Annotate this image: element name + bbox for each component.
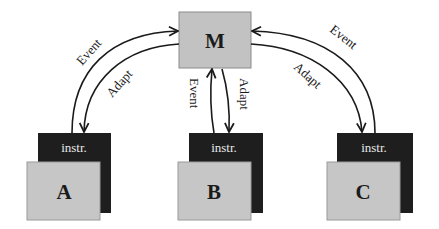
edge-b-event-arrow (211, 69, 214, 133)
node-c-label: C (355, 180, 370, 204)
node-b-label: B (207, 180, 221, 204)
node-m-label: M (205, 29, 225, 53)
node-a-instr-label: instr. (61, 140, 87, 155)
edges-b: Event Adapt (187, 69, 252, 133)
node-m: M (179, 12, 251, 68)
node-a: instr. A (27, 133, 111, 220)
event-adapt-diagram: M Event Adapt Event Adapt Event Adapt in… (0, 0, 439, 229)
node-a-label: A (56, 180, 72, 204)
node-b: instr. B (178, 133, 263, 220)
edges-c: Event Adapt (251, 22, 375, 133)
node-c: instr. C (327, 133, 413, 220)
edge-a-adapt-label: Adapt (103, 66, 136, 100)
edges-a: Event Adapt (72, 31, 179, 133)
edge-c-adapt-arrow (251, 44, 362, 132)
edge-c-event-label: Event (327, 22, 360, 53)
node-c-instr-label: instr. (361, 140, 387, 155)
node-b-instr-label: instr. (211, 140, 237, 155)
edge-a-adapt-arrow (84, 44, 179, 132)
edge-b-adapt-label: Adapt (237, 78, 252, 110)
edge-b-event-label: Event (187, 78, 202, 109)
edge-a-event-label: Event (73, 35, 105, 68)
edge-b-adapt-arrow (222, 69, 229, 132)
